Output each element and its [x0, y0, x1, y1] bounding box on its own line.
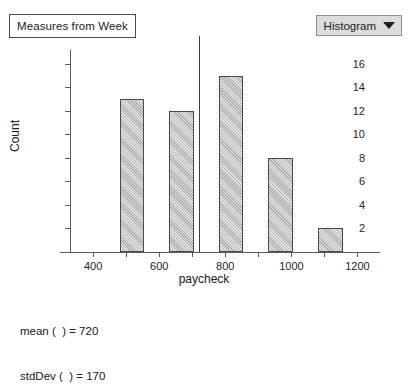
y-axis-tick — [65, 205, 70, 206]
x-axis-tick-label: 800 — [216, 260, 234, 272]
y-axis-tick — [65, 158, 70, 159]
y-axis-tick — [65, 111, 70, 112]
y-axis-tick — [65, 134, 70, 135]
x-axis-tick-label: 1200 — [345, 260, 369, 272]
histogram-bar[interactable] — [219, 76, 244, 252]
x-axis-tick-label: 400 — [84, 260, 102, 272]
mean-reference-line[interactable] — [199, 36, 200, 252]
x-axis-minor-tick — [324, 252, 325, 257]
y-axis-tick-label: 14 — [353, 81, 365, 93]
x-axis-tick — [93, 252, 94, 257]
x-axis-minor-tick — [126, 252, 127, 257]
y-axis-tick-label: 10 — [353, 128, 365, 140]
chevron-down-icon — [383, 22, 395, 29]
y-axis-tick-label: 16 — [353, 58, 365, 70]
plot-area: 24681012141640060080010001200 — [70, 52, 374, 252]
x-axis-tick — [357, 252, 358, 257]
y-axis-tick-label: 8 — [359, 152, 365, 164]
mean-stat: mean ( ) = 720 — [20, 324, 105, 339]
y-axis-tick-label: 12 — [353, 105, 365, 117]
stats-block: mean ( ) = 720 stdDev ( ) = 170 — [20, 294, 105, 386]
chart-title-box[interactable]: Measures from Week — [9, 14, 136, 38]
chart-title-label: Measures from Week — [17, 20, 128, 32]
x-axis-minor-tick — [258, 252, 259, 257]
histogram-bar[interactable] — [318, 228, 343, 252]
x-axis-tick-label: 600 — [150, 260, 168, 272]
histogram-bar[interactable] — [268, 158, 293, 252]
y-axis-tick — [65, 64, 70, 65]
x-axis-tick — [291, 252, 292, 257]
y-axis-tick — [65, 181, 70, 182]
x-axis-tick — [159, 252, 160, 257]
y-axis-title: Count — [8, 120, 22, 152]
histogram-bar[interactable] — [169, 111, 194, 252]
x-axis-line — [60, 252, 380, 253]
y-axis-tick — [65, 228, 70, 229]
y-axis-tick — [65, 87, 70, 88]
y-axis-tick-label: 6 — [359, 175, 365, 187]
histogram-bar[interactable] — [120, 99, 145, 252]
x-axis-title: paycheck — [0, 272, 408, 286]
x-axis-tick-label: 1000 — [279, 260, 303, 272]
plot-type-dropdown[interactable]: Histogram — [316, 15, 402, 36]
stddev-stat: stdDev ( ) = 170 — [20, 369, 105, 384]
plot-type-dropdown-value: Histogram — [324, 20, 376, 32]
y-axis-tick-label: 2 — [359, 222, 365, 234]
x-axis-tick — [225, 252, 226, 257]
y-axis-tick-label: 4 — [359, 199, 365, 211]
x-axis-minor-tick — [192, 252, 193, 257]
